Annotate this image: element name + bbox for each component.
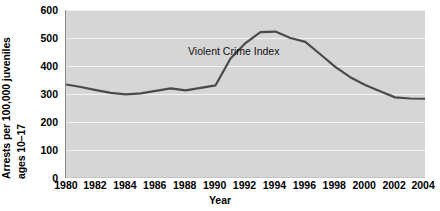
y-tick-label: 400: [32, 61, 58, 71]
x-tick-label: 2000: [352, 179, 375, 191]
x-axis-title: Year: [0, 194, 440, 206]
x-tick-label: 2002: [382, 179, 405, 191]
x-tick-label: 1988: [173, 179, 196, 191]
y-tick-label: 600: [32, 5, 58, 15]
x-axis-tick-labels: 1980198219841986198819901992199419961998…: [0, 179, 440, 193]
chart-figure: Arrests per 100,000 juveniles ages 10–17…: [0, 0, 440, 211]
violent-crime-index-line: [66, 32, 425, 99]
x-tick-label: 1982: [83, 179, 106, 191]
y-tick-label: 300: [32, 89, 58, 99]
cropped-title-fragment: [200, 0, 212, 3]
x-tick-label: 1990: [203, 179, 226, 191]
x-tick-label: 1998: [323, 179, 346, 191]
y-axis-title: Arrests per 100,000 juveniles ages 10–17: [0, 0, 34, 185]
x-tick-label: 2004: [411, 179, 434, 191]
x-tick-label: 1994: [263, 179, 286, 191]
x-tick-label: 1992: [233, 179, 256, 191]
series-annotation-label: Violent Crime Index: [188, 45, 279, 57]
series-plot: [66, 10, 425, 178]
y-tick-label: 100: [32, 145, 58, 155]
x-tick-label: 1980: [54, 179, 77, 191]
y-axis-title-line-2: ages 10–17: [15, 124, 27, 179]
y-axis-tick-labels: 6005004003002001000: [30, 0, 58, 185]
y-axis-title-line-1: Arrests per 100,000 juveniles: [0, 37, 12, 179]
x-tick-label: 1996: [293, 179, 316, 191]
y-tick-label: 500: [32, 33, 58, 43]
plot-area: Violent Crime Index: [65, 10, 425, 178]
x-tick-label: 1984: [113, 179, 136, 191]
y-tick-label: 200: [32, 117, 58, 127]
x-tick-label: 1986: [143, 179, 166, 191]
